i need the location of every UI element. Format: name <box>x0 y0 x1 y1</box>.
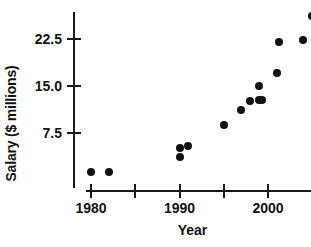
y-axis-title: Salary ($ millions) <box>0 0 22 247</box>
x-tick-label: 1980 <box>61 200 121 216</box>
data-point <box>176 144 184 152</box>
data-point <box>220 121 228 129</box>
data-point <box>105 168 113 176</box>
x-tick-label: 2000 <box>238 200 298 216</box>
data-point <box>275 38 283 46</box>
x-axis-title: Year <box>74 222 311 238</box>
data-point <box>255 82 263 90</box>
x-tick-mark <box>134 184 136 198</box>
data-point <box>246 97 254 105</box>
x-tick-mark <box>267 184 269 198</box>
y-tick-mark <box>67 132 81 134</box>
scatter-plot-figure: 7.515.022.5 198019902000 Salary ($ milli… <box>0 0 311 247</box>
x-tick-mark <box>90 184 92 198</box>
data-point <box>273 69 281 77</box>
data-point <box>258 96 266 104</box>
y-tick-mark <box>67 38 81 40</box>
x-axis-line <box>86 190 311 192</box>
data-point <box>299 36 307 44</box>
data-point <box>308 12 311 20</box>
data-point <box>176 153 184 161</box>
data-point <box>237 106 245 114</box>
x-tick-mark <box>179 184 181 198</box>
x-tick-mark <box>223 184 225 198</box>
data-point <box>184 142 192 150</box>
data-point <box>87 168 95 176</box>
y-tick-mark <box>67 85 81 87</box>
x-tick-label: 1990 <box>150 200 210 216</box>
